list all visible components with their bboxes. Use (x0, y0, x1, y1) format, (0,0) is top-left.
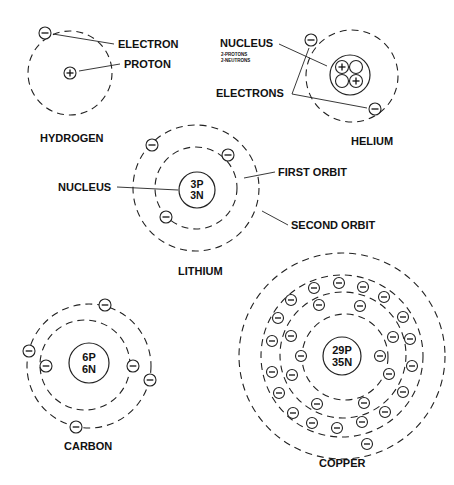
proton-icon (336, 61, 349, 74)
electron-icon (379, 292, 390, 303)
hydrogen-label: HYDROGEN (40, 132, 104, 144)
electron-icon (405, 334, 416, 345)
helium-label: HELIUM (351, 135, 393, 147)
helium-atom: NUCLEUS 2-PROTONS 2-NEUTRONS ELECTRONS H… (216, 30, 398, 147)
electron-icon (369, 103, 381, 115)
electron-icon (40, 360, 52, 372)
lithium-nucleus-leader (117, 187, 178, 190)
hydrogen-atom: ELECTRON PROTON HYDROGEN (28, 27, 179, 144)
electron-icon (407, 361, 418, 372)
diagram-canvas: ELECTRON PROTON HYDROGEN (0, 0, 454, 485)
electron-icon (287, 370, 298, 381)
helium-neutrons-label: 2-NEUTRONS (221, 58, 250, 63)
electron-icon (398, 312, 409, 323)
proton-icon (64, 67, 76, 79)
electron-icon (388, 332, 399, 343)
electron-icon (332, 423, 343, 434)
electron-icon (144, 374, 156, 386)
electron-icon (375, 351, 386, 362)
electron-icon (380, 407, 391, 418)
electron-icon (309, 283, 320, 294)
copper-atom: 29P 35N COPPER (239, 253, 445, 469)
electron-icon (307, 418, 318, 429)
proton-leader (79, 64, 120, 71)
lithium-label: LITHIUM (178, 265, 223, 277)
electron-icon (398, 387, 409, 398)
lithium-neutrons: 3N (190, 189, 203, 201)
copper-protons: 29P (332, 344, 352, 356)
atom-structure-diagram: ELECTRON PROTON HYDROGEN (0, 0, 454, 485)
proton-icon (350, 75, 363, 88)
electron-icon (267, 367, 278, 378)
electron-icon (286, 331, 297, 342)
proton-label: PROTON (124, 58, 171, 70)
electron-icon (362, 439, 373, 450)
helium-protons-label: 2-PROTONS (221, 52, 247, 57)
second-orbit-leader (262, 211, 288, 225)
first-orbit-leader (244, 172, 275, 178)
electron-leader (53, 34, 114, 44)
nucleus-leader (279, 44, 327, 66)
electron-icon (267, 336, 278, 347)
electron-icon (160, 211, 172, 223)
electrons-label: ELECTRONS (216, 87, 284, 99)
electron-icon (70, 421, 82, 433)
copper-label: COPPER (319, 457, 366, 469)
electron-icon (359, 398, 370, 409)
helium-nucleus (330, 55, 370, 95)
neutron-icon (336, 75, 349, 88)
electron-icon (274, 388, 285, 399)
electron-icon (99, 299, 111, 311)
carbon-neutrons: 6N (82, 363, 96, 375)
electron-icon (222, 149, 234, 161)
electron-icon (23, 345, 35, 357)
lithium-nucleus-label: NUCLEUS (58, 181, 111, 193)
electron-icon (334, 278, 345, 289)
electron-icon (314, 300, 325, 311)
carbon-protons: 6P (82, 351, 95, 363)
electron-icon (286, 295, 297, 306)
electron-icon (305, 34, 317, 46)
electrons-leader-2 (292, 94, 367, 108)
electron-icon (358, 282, 369, 293)
carbon-label: CARBON (64, 440, 112, 452)
electron-label: ELECTRON (118, 38, 179, 50)
neutron-icon (350, 61, 363, 74)
helium-nucleus-label: NUCLEUS (220, 37, 273, 49)
electron-icon (312, 399, 323, 410)
electron-icon (146, 139, 158, 151)
copper-neutrons: 35N (332, 356, 352, 368)
electron-icon (357, 417, 368, 428)
carbon-atom: 6P 6N CARBON (23, 299, 156, 452)
electron-icon (288, 408, 299, 419)
electron-icon (273, 313, 284, 324)
electron-icon (127, 360, 139, 372)
second-orbit-label: SECOND ORBIT (291, 219, 376, 231)
electron-icon (39, 27, 51, 39)
electron-icon (296, 351, 307, 362)
first-orbit-label: FIRST ORBIT (278, 166, 347, 178)
electron-icon (355, 301, 366, 312)
electron-icon (384, 369, 395, 380)
